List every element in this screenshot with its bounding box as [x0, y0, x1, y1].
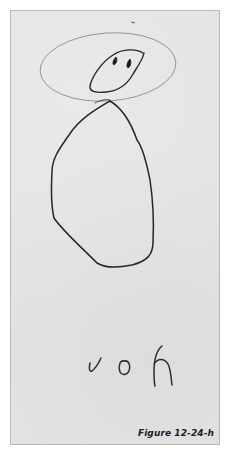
halo-mark: [131, 22, 135, 23]
right-eye: [127, 59, 131, 68]
halo-oval: [38, 28, 178, 105]
left-eye: [113, 57, 117, 65]
head-outline: [90, 50, 144, 92]
body-outline: [51, 101, 153, 267]
letter-h: [154, 346, 172, 386]
handwritten-text: [89, 346, 172, 386]
letter-o: [119, 361, 130, 375]
figure-caption: Figure 12-24-h: [138, 428, 214, 438]
child-drawing: [0, 0, 228, 456]
letter-v: [89, 358, 101, 371]
